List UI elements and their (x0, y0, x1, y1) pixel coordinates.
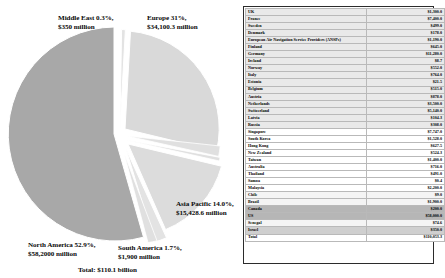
table-cell-country: Latvia (246, 114, 367, 121)
table-cell-value: $308.0 (367, 121, 445, 128)
table-cell-value: $74.6 (367, 220, 445, 227)
table-cell-country: Finland (246, 44, 367, 51)
table-cell-value: $499.0 (367, 23, 445, 30)
table-cell-country: Canada (246, 206, 367, 213)
table-cell-value: $350.0 (367, 227, 445, 234)
table-cell-country: Israel (246, 227, 367, 234)
table-cell-value: $21.5 (367, 79, 445, 86)
table-row: Norway$552.0 (246, 65, 445, 72)
table-row: Senegal$74.6 (246, 220, 445, 227)
table-cell-country: Austria (246, 93, 367, 100)
table-cell-country: Netherlands (246, 100, 367, 107)
table-cell-country: Taiwan (246, 156, 367, 163)
table-cell-value: $7,400.0 (367, 16, 445, 23)
table-cell-country: UK (246, 9, 367, 16)
pie-label-middle-east-line2: $350 million (58, 23, 114, 32)
pie-label-north-america-line2: $58,2000 million (28, 250, 96, 259)
pie-total-label: Total: $110.1 billion (78, 266, 137, 275)
table-cell-value: $1,528.0 (367, 135, 445, 142)
table-row: Denmark$178.0 (246, 30, 445, 37)
table-row: Malaysia$2,200.0 (246, 185, 445, 192)
table-cell-value: $110,053.3 (367, 234, 445, 241)
pie-slice-middle-east (120, 30, 125, 129)
table-cell-value: $7,747.0 (367, 128, 445, 135)
pie-chart-panel: Middle East 0.3%, $350 million Europe 31… (0, 0, 238, 278)
table-row: Italy$764.0 (246, 72, 445, 79)
table-cell-country: Chile (246, 192, 367, 199)
table-row: Estonia$21.5 (246, 79, 445, 86)
table-row: Taiwan$1,400.0 (246, 156, 445, 163)
table-cell-country: Switzerland (246, 107, 367, 114)
table-cell-value: $552.0 (367, 65, 445, 72)
table-cell-value: $104.3 (367, 114, 445, 121)
table-cell-value: $1,190.0 (367, 37, 445, 44)
table-cell-value: $1,400.0 (367, 156, 445, 163)
country-value-table-panel: UK$1,300.0France$7,400.0Sweden$499.0Denm… (243, 6, 434, 264)
table-row: UK$1,300.0 (246, 9, 445, 16)
table-cell-value: $1,300.0 (367, 9, 445, 16)
table-row: Russia$308.0 (246, 121, 445, 128)
pie-label-asia-pacific-line1: Asia Pacific 14.0%, (176, 200, 234, 209)
table-cell-country: New Zealand (246, 149, 367, 156)
table-row: Total$110,053.3 (246, 234, 445, 241)
table-cell-country: Norway (246, 65, 367, 72)
table-cell-value: $1,900.0 (367, 199, 445, 206)
pie-label-south-america-line2: $1,900 million (118, 253, 182, 262)
table-row: South Korea$1,528.0 (246, 135, 445, 142)
table-cell-country: Estonia (246, 79, 367, 86)
table-cell-value: $8.7 (367, 58, 445, 65)
table-row: Samoa$0.4 (246, 178, 445, 185)
table-cell-value: $645.0 (367, 44, 445, 51)
pie-label-europe: Europe 31%, $34,100.3 million (147, 14, 198, 32)
pie-label-europe-line1: Europe 31%, (147, 14, 198, 23)
table-cell-value: $0.4 (367, 178, 445, 185)
table-row: Thailand$491.0 (246, 171, 445, 178)
table-cell-value: $515.0 (367, 86, 445, 93)
table-cell-country: Belgium (246, 86, 367, 93)
pie-label-europe-line2: $34,100.3 million (147, 23, 198, 32)
table-cell-value: $627.5 (367, 142, 445, 149)
table-cell-country: Senegal (246, 220, 367, 227)
table-cell-value: $178.0 (367, 30, 445, 37)
table-cell-country: South Korea (246, 135, 367, 142)
table-row: Israel$350.0 (246, 227, 445, 234)
table-cell-country: France (246, 16, 367, 23)
table-row: Australia$716.0 (246, 164, 445, 171)
table-cell-country: European Air Navigation Service Provider… (246, 37, 367, 44)
table-cell-country: Total (246, 234, 367, 241)
table-row: Netherlands$3,500.0 (246, 100, 445, 107)
pie-label-asia-pacific-line2: $15,428.6 million (176, 209, 234, 218)
pie-label-asia-pacific: Asia Pacific 14.0%, $15,428.6 million (176, 200, 234, 218)
table-row: Hong Kong$627.5 (246, 142, 445, 149)
country-value-table: UK$1,300.0France$7,400.0Sweden$499.0Denm… (245, 8, 445, 242)
table-cell-country: Ireland (246, 58, 367, 65)
table-body: UK$1,300.0France$7,400.0Sweden$499.0Denm… (246, 9, 445, 242)
table-row: Singapore$7,747.0 (246, 128, 445, 135)
table-cell-value: $524.3 (367, 149, 445, 156)
table-row: New Zealand$524.3 (246, 149, 445, 156)
table-row: Germany$11,280.0 (246, 51, 445, 58)
table-cell-country: Italy (246, 72, 367, 79)
table-cell-value: $764.0 (367, 72, 445, 79)
table-row: Latvia$104.3 (246, 114, 445, 121)
table-row: Brazil$1,900.0 (246, 199, 445, 206)
pie-label-north-america-line1: North America 52.9%, (28, 241, 96, 250)
table-row: European Air Navigation Service Provider… (246, 37, 445, 44)
table-cell-country: Singapore (246, 128, 367, 135)
table-row: Finland$645.0 (246, 44, 445, 51)
pie-label-north-america: North America 52.9%, $58,2000 million (28, 241, 96, 259)
pie-slice-europe (125, 31, 219, 151)
table-row: Belgium$515.0 (246, 86, 445, 93)
table-cell-country: Malaysia (246, 185, 367, 192)
pie-label-south-america: South America 1.7%, $1,900 million (118, 244, 182, 262)
table-cell-value: $200.0 (367, 206, 445, 213)
table-row: Austria$878.0 (246, 93, 445, 100)
table-cell-country: Sweden (246, 23, 367, 30)
table-cell-country: Denmark (246, 30, 367, 37)
table-cell-country: Thailand (246, 171, 367, 178)
pie-label-middle-east-line1: Middle East 0.3%, (58, 14, 114, 23)
table-cell-country: Germany (246, 51, 367, 58)
table-cell-country: Australia (246, 164, 367, 171)
table-cell-country: Hong Kong (246, 142, 367, 149)
